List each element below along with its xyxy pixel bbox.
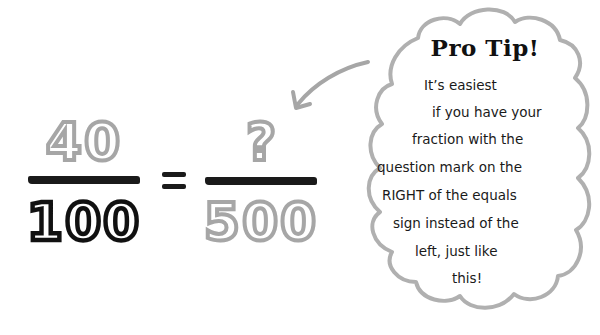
tip-line: left, just like	[415, 245, 498, 259]
right-fraction-numerator: ?	[212, 116, 312, 168]
tip-line: this!	[452, 272, 482, 286]
right-fraction-bar	[205, 177, 317, 185]
tip-line: question mark on the	[377, 161, 522, 175]
equals-bottom-line	[162, 184, 186, 189]
left-fraction-denominator: 100	[22, 196, 146, 248]
tip-line: if you have your	[432, 106, 542, 120]
tip-line: fraction with the	[412, 133, 523, 147]
tip-line: RIGHT of the equals	[382, 189, 517, 203]
tip-line: sign instead of the	[393, 217, 519, 231]
equals-top-line	[162, 172, 186, 177]
pro-tip-title: Pro Tip!	[405, 34, 565, 61]
left-fraction-numerator: 40	[26, 116, 142, 168]
tip-line: It’s easiest	[424, 79, 497, 93]
pointer-arrow-shaft	[298, 62, 368, 104]
left-fraction-bar	[28, 176, 140, 184]
right-fraction-denominator: 500	[198, 196, 324, 248]
